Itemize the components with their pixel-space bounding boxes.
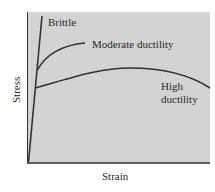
moderate-ductility-label: Moderate ductility — [92, 38, 174, 50]
y-axis-label: Stress — [10, 77, 22, 103]
stress-strain-diagram: Brittle Moderate ductility High ductilit… — [0, 0, 215, 192]
high-ductility-label-2: ductility — [161, 93, 198, 105]
x-axis-label: Strain — [102, 170, 129, 182]
brittle-label: Brittle — [48, 16, 76, 28]
high-ductility-label-1: High — [161, 80, 184, 92]
